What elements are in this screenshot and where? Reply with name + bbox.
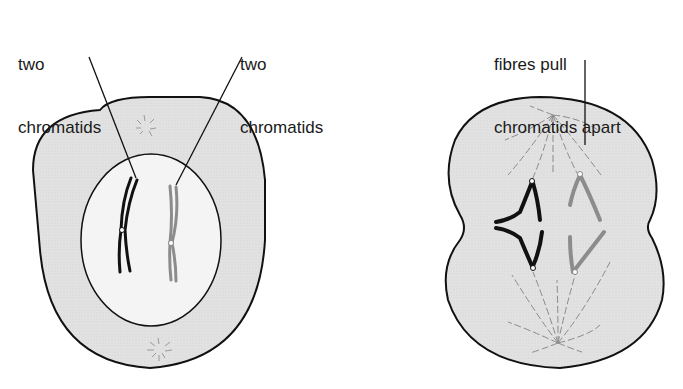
label-line-2: chromatids apart bbox=[494, 117, 621, 138]
light-lower-centromere bbox=[573, 270, 578, 275]
dark-upper-centromere bbox=[530, 179, 535, 184]
label-line-2: chromatids bbox=[18, 117, 101, 138]
label-line-2: chromatids bbox=[240, 117, 323, 138]
label-line-1: fibres pull bbox=[494, 54, 621, 75]
label-two-chromatids-right: two chromatids bbox=[240, 12, 323, 159]
light-centromere bbox=[169, 241, 174, 246]
dark-centromere bbox=[120, 228, 125, 233]
label-line-1: two bbox=[18, 54, 101, 75]
label-line-1: two bbox=[240, 54, 323, 75]
label-fibres-pull-apart: fibres pull chromatids apart bbox=[494, 12, 621, 159]
light-upper-centromere bbox=[578, 172, 583, 177]
dark-lower-centromere bbox=[531, 266, 536, 271]
label-two-chromatids-left: two chromatids bbox=[18, 12, 101, 159]
left-nucleus bbox=[81, 154, 221, 326]
